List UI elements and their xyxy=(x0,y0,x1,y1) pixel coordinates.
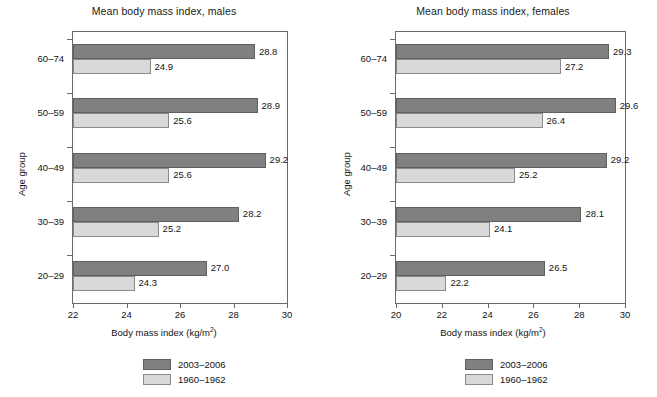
bar-old xyxy=(73,276,135,291)
y-axis-tick xyxy=(390,255,396,256)
bar-recent xyxy=(396,261,545,276)
y-axis-category-label: 50–59 xyxy=(361,108,387,118)
legend-item-old: 1960–1962 xyxy=(143,373,226,386)
bar-value-label-recent: 28.1 xyxy=(585,209,604,219)
y-axis-tick xyxy=(390,39,396,40)
x-axis-tick xyxy=(533,303,534,308)
bar-old xyxy=(396,222,490,237)
y-axis-title-females: Age group xyxy=(341,152,352,196)
bar-value-label-recent: 29.2 xyxy=(611,155,630,165)
y-axis-category-label: 60–74 xyxy=(38,54,64,64)
y-axis-category-label: 60–74 xyxy=(361,54,387,64)
x-axis-tick xyxy=(396,303,397,308)
bar-value-label-recent: 29.2 xyxy=(270,155,289,165)
x-axis-tick xyxy=(488,303,489,308)
bar-old xyxy=(73,168,169,183)
x-axis-tick-label: 26 xyxy=(175,310,186,320)
bar-recent xyxy=(396,98,616,113)
bar-value-label-old: 25.2 xyxy=(519,170,538,180)
x-axis-title-males: Body mass index (kg/m2) xyxy=(0,326,328,338)
legend-swatch-recent-icon xyxy=(143,359,171,370)
chart-panel-females: Mean body mass index, females Age group … xyxy=(329,0,657,397)
bar-value-label-old: 26.4 xyxy=(547,116,566,126)
y-axis-category-label: 40–49 xyxy=(38,163,64,173)
x-axis-tick-label: 24 xyxy=(121,310,132,320)
y-axis-tick xyxy=(390,147,396,148)
x-axis-tick-label: 28 xyxy=(574,310,585,320)
y-axis-tick xyxy=(390,93,396,94)
legend-swatch-old-icon xyxy=(143,374,171,385)
x-axis-tick-label: 30 xyxy=(282,310,293,320)
bar-recent xyxy=(73,207,239,222)
bar-recent xyxy=(396,44,609,59)
x-axis-title-tail: ) xyxy=(214,327,217,338)
bar-recent xyxy=(396,153,607,168)
plot-area-males: 222426283060–7428.824.950–5928.925.640–4… xyxy=(72,31,288,304)
y-axis-tick xyxy=(67,201,73,202)
legend-item-old: 1960–1962 xyxy=(465,373,548,386)
legend-label-recent: 2003–2006 xyxy=(178,360,226,370)
bar-recent xyxy=(396,207,581,222)
bar-value-label-old: 25.6 xyxy=(173,170,192,180)
y-axis-title-males: Age group xyxy=(16,152,27,196)
chart-title-males: Mean body mass index, males xyxy=(0,5,328,17)
chart-panel-males: Mean body mass index, males Age group 22… xyxy=(0,0,328,397)
chart-title-females: Mean body mass index, females xyxy=(329,5,657,17)
bar-old xyxy=(73,59,151,74)
plot-area-females: 20222426283060–7429.327.250–5929.626.440… xyxy=(395,31,626,304)
bar-value-label-old: 27.2 xyxy=(565,62,584,72)
bar-value-label-recent: 28.9 xyxy=(262,101,281,111)
legend-label-old: 1960–1962 xyxy=(500,375,548,385)
x-axis-tick-label: 24 xyxy=(482,310,493,320)
x-axis-title-tail: ) xyxy=(543,327,546,338)
legend-females: 2003–2006 1960–1962 xyxy=(465,358,548,386)
bar-value-label-recent: 29.6 xyxy=(620,101,639,111)
x-axis-tick xyxy=(73,303,74,308)
x-axis-tick-label: 28 xyxy=(228,310,239,320)
x-axis-tick-label: 20 xyxy=(391,310,402,320)
bar-value-label-recent: 29.3 xyxy=(613,47,632,57)
bar-value-label-recent: 28.2 xyxy=(243,209,262,219)
bar-value-label-old: 22.2 xyxy=(450,278,469,288)
x-axis-tick xyxy=(625,303,626,308)
bar-value-label-old: 25.6 xyxy=(173,116,192,126)
y-axis-category-label: 20–29 xyxy=(38,271,64,281)
legend-swatch-recent-icon xyxy=(465,359,493,370)
bar-recent xyxy=(73,261,207,276)
x-axis-tick xyxy=(127,303,128,308)
bar-old xyxy=(396,168,515,183)
legend-item-recent: 2003–2006 xyxy=(143,358,226,371)
y-axis-tick xyxy=(67,255,73,256)
bar-recent xyxy=(73,44,255,59)
bar-value-label-old: 24.3 xyxy=(139,278,158,288)
y-axis-category-label: 30–39 xyxy=(38,217,64,227)
x-axis-title-females: Body mass index (kg/m2) xyxy=(329,326,657,338)
x-axis-tick xyxy=(180,303,181,308)
figure-root: Mean body mass index, males Age group 22… xyxy=(0,0,657,397)
x-axis-tick-label: 22 xyxy=(437,310,448,320)
bar-recent xyxy=(73,98,258,113)
x-axis-tick xyxy=(579,303,580,308)
x-axis-tick xyxy=(287,303,288,308)
y-axis-category-label: 50–59 xyxy=(38,108,64,118)
x-axis-tick-label: 22 xyxy=(68,310,79,320)
legend-swatch-old-icon xyxy=(465,374,493,385)
bar-value-label-old: 25.2 xyxy=(163,224,182,234)
x-axis-title-base: Body mass index (kg/m xyxy=(111,327,210,338)
legend-item-recent: 2003–2006 xyxy=(465,358,548,371)
bar-value-label-recent: 28.8 xyxy=(259,47,278,57)
bar-old xyxy=(396,113,543,128)
y-axis-tick xyxy=(67,39,73,40)
y-axis-category-label: 30–39 xyxy=(361,217,387,227)
y-axis-tick xyxy=(67,147,73,148)
bar-old xyxy=(396,59,561,74)
x-axis-tick xyxy=(234,303,235,308)
x-axis-title-base: Body mass index (kg/m xyxy=(440,327,539,338)
x-axis-tick-label: 30 xyxy=(620,310,631,320)
y-axis-tick xyxy=(390,201,396,202)
y-axis-category-label: 20–29 xyxy=(361,271,387,281)
bar-value-label-old: 24.1 xyxy=(494,224,513,234)
bar-value-label-old: 24.9 xyxy=(155,62,174,72)
bar-old xyxy=(396,276,446,291)
bar-value-label-recent: 27.0 xyxy=(211,263,230,273)
